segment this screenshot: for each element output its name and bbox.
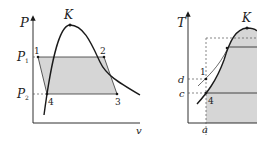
ts-point-1: [205, 78, 208, 81]
critical-point: [69, 24, 72, 27]
p2-label: P2: [16, 87, 29, 101]
ts-diagram: T K d c 1 4 a: [177, 11, 257, 135]
ts-point-1-label: 1: [200, 67, 206, 77]
pv-diagram: P K P1 P2 1 2 3 4 v: [16, 8, 142, 136]
c-label: c: [179, 88, 185, 99]
point-3-label: 3: [115, 97, 121, 107]
p-axis-label: P: [19, 15, 29, 30]
point-3: [116, 93, 119, 96]
ts-critical-point: [246, 27, 249, 30]
t-axis-label: T: [177, 15, 187, 30]
ts-point-4-label: 4: [208, 96, 214, 106]
ts-area: [206, 29, 257, 123]
point-1: [37, 56, 40, 59]
v-axis-label: v: [136, 125, 142, 136]
ts-k-label: K: [241, 11, 252, 25]
ts-point-top: [226, 47, 229, 50]
d-label: d: [178, 74, 184, 85]
point-4-label: 4: [48, 97, 54, 107]
point-2: [103, 56, 106, 59]
diagram-canvas: P K P1 P2 1 2 3 4 v T K d c 1 4 a: [0, 0, 257, 149]
p1-label: P1: [16, 50, 29, 64]
point-1-label: 1: [34, 46, 40, 56]
point-2-label: 2: [100, 46, 106, 56]
a-label: a: [202, 124, 208, 135]
point-4: [46, 93, 49, 96]
k-label: K: [63, 8, 74, 22]
ts-point-4: [205, 92, 208, 95]
